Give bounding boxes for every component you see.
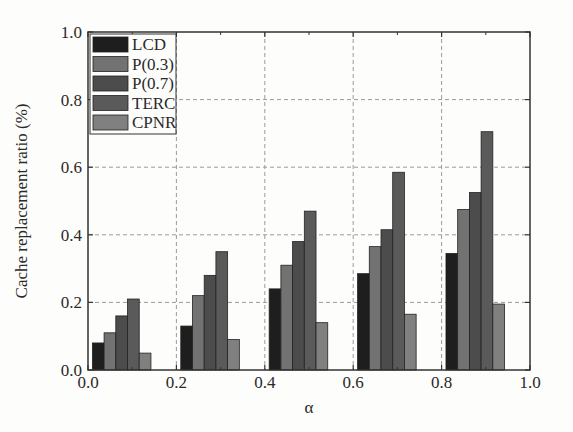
- legend-swatch: [93, 115, 128, 130]
- bar-p-0-7--0.5: [293, 242, 305, 370]
- y-tick-label: 0.4: [61, 226, 83, 245]
- bar-terc-0.5: [304, 211, 316, 370]
- legend-label: LCD: [132, 35, 166, 54]
- bar-lcd-0.1: [92, 343, 104, 370]
- x-tick-label: 0.0: [77, 373, 98, 392]
- legend-swatch: [93, 76, 128, 91]
- x-tick-label: 0.8: [431, 373, 452, 392]
- bar-lcd-0.5: [269, 289, 281, 370]
- bar-cpnr-0.1: [139, 353, 151, 370]
- legend-label: P(0.7): [132, 74, 174, 93]
- bar-p-0-3--0.9: [458, 209, 470, 370]
- y-tick-label: 1.0: [61, 23, 82, 42]
- x-tick-label: 0.6: [343, 373, 364, 392]
- bar-cpnr-0.5: [316, 323, 328, 370]
- x-tick-label: 0.4: [254, 373, 276, 392]
- x-axis-title: α: [305, 398, 314, 417]
- legend-swatch: [93, 57, 128, 72]
- legend: LCDP(0.3)P(0.7)TERCCPNR: [90, 34, 177, 134]
- bar-lcd-0.7: [358, 274, 370, 370]
- y-axis-title: Cache replacement ratio (%): [12, 104, 31, 299]
- bar-p-0-7--0.1: [116, 316, 128, 370]
- legend-swatch: [93, 96, 128, 111]
- bar-cpnr-0.9: [493, 304, 505, 370]
- bar-p-0-7--0.7: [381, 230, 393, 370]
- bar-lcd-0.3: [181, 326, 193, 370]
- bar-p-0-3--0.1: [104, 333, 116, 370]
- legend-label: P(0.3): [132, 55, 174, 74]
- legend-label: TERC: [132, 94, 175, 113]
- legend-label: CPNR: [132, 113, 177, 132]
- bar-terc-0.3: [216, 252, 228, 370]
- bar-p-0-3--0.7: [369, 247, 381, 370]
- y-tick-label: 0.6: [61, 158, 82, 177]
- bar-chart: 0.00.20.40.60.81.00.00.20.40.60.81.0 LCD…: [0, 0, 573, 432]
- bar-p-0-3--0.5: [281, 265, 293, 370]
- bar-terc-0.7: [393, 172, 405, 370]
- x-tick-label: 1.0: [519, 373, 540, 392]
- y-tick-label: 0.8: [61, 91, 82, 110]
- x-tick-label: 0.2: [166, 373, 187, 392]
- y-tick-label: 0.2: [61, 293, 82, 312]
- bar-cpnr-0.7: [404, 314, 416, 370]
- bar-p-0-7--0.9: [469, 193, 481, 370]
- bar-cpnr-0.3: [228, 340, 240, 370]
- bar-p-0-3--0.3: [192, 296, 204, 370]
- legend-swatch: [93, 37, 128, 52]
- bar-terc-0.1: [128, 299, 140, 370]
- bar-p-0-7--0.3: [204, 275, 216, 370]
- bar-lcd-0.9: [446, 253, 458, 370]
- bar-terc-0.9: [481, 132, 493, 370]
